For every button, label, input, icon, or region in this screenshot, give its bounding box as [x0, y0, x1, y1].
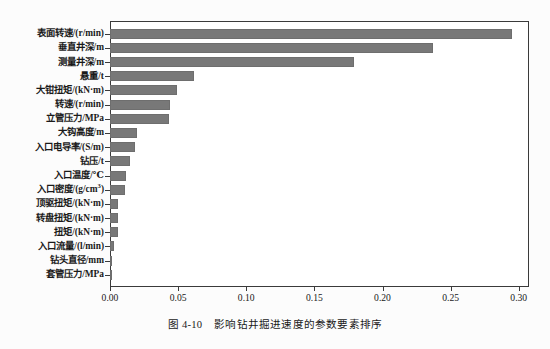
y-axis-label: 套管压力/MPa: [0, 269, 104, 280]
bars-layer: [110, 21, 529, 287]
bar-row: [110, 154, 529, 168]
x-axis-tick: [110, 287, 111, 291]
bar-row: [110, 112, 529, 126]
x-axis-tick-label: 0.00: [90, 292, 130, 303]
bar-row: [110, 268, 529, 282]
bar-row: [110, 239, 529, 253]
bar: [110, 71, 194, 81]
bar: [110, 213, 118, 223]
y-axis-label: 扭矩/(kN·m): [0, 227, 104, 238]
bar-row: [110, 169, 529, 183]
bar-row: [110, 69, 529, 83]
bar-row: [110, 27, 529, 41]
caption-number: 图 4-10: [168, 319, 202, 330]
bar-row: [110, 98, 529, 112]
y-axis-label: 入口温度/℃: [0, 170, 104, 181]
y-axis-label: 测量井深/m: [0, 57, 104, 68]
y-axis-label: 大钩高度/m: [0, 127, 104, 138]
y-axis-label: 入口电导率/(S/m): [0, 142, 104, 153]
y-axis-label: 入口密度/(g/cm3): [0, 184, 104, 195]
y-axis-label: 入口流量/(l/min): [0, 241, 104, 252]
x-axis-tick: [519, 287, 520, 291]
bar: [110, 185, 125, 195]
bar: [110, 241, 114, 251]
x-axis-tick-label: 0.30: [499, 292, 539, 303]
y-axis-label: 转盘扭矩/(kN·m): [0, 213, 104, 224]
y-axis-label: 悬重/t: [0, 71, 104, 82]
x-axis-tick: [178, 287, 179, 291]
x-axis-tick-label: 0.15: [294, 292, 334, 303]
bar: [110, 114, 169, 124]
y-axis-label: 立管压力/MPa: [0, 113, 104, 124]
bar-row: [110, 225, 529, 239]
bar: [110, 57, 354, 67]
bar: [110, 29, 512, 39]
bar: [110, 100, 170, 110]
bar-row: [110, 55, 529, 69]
y-axis-label: 大钳扭矩/(kN·m): [0, 85, 104, 96]
x-axis-tick-label: 0.10: [226, 292, 266, 303]
x-axis-tick: [314, 287, 315, 291]
x-axis-tick: [383, 287, 384, 291]
bar-row: [110, 126, 529, 140]
bar-row: [110, 197, 529, 211]
figure-container: 表面转速/(r/min)垂直井深/m测量井深/m悬重/t大钳扭矩/(kN·m)转…: [0, 0, 550, 349]
figure-caption: 图 4-10影响钻井掘进速度的参数要素排序: [0, 316, 550, 331]
bar: [110, 156, 130, 166]
bar: [110, 270, 112, 280]
bar: [110, 43, 433, 53]
y-axis-category-labels: 表面转速/(r/min)垂直井深/m测量井深/m悬重/t大钳扭矩/(kN·m)转…: [0, 21, 104, 287]
x-axis-tick-label: 0.20: [363, 292, 403, 303]
bar: [110, 171, 126, 181]
bar: [110, 85, 177, 95]
bar-row: [110, 183, 529, 197]
bar: [110, 227, 118, 237]
bar-row: [110, 41, 529, 55]
y-axis-label: 顶驱扭矩/(kN·m): [0, 198, 104, 209]
x-axis-tick-label: 0.25: [431, 292, 471, 303]
y-axis-label: 钻压/t: [0, 156, 104, 167]
y-axis-label: 钻头直径/mm: [0, 255, 104, 266]
y-axis-label: 表面转速/(r/min): [0, 28, 104, 39]
bar: [110, 199, 118, 209]
bar: [110, 256, 112, 266]
x-axis-tick: [246, 287, 247, 291]
y-axis-label: 垂直井深/m: [0, 42, 104, 53]
bar: [110, 142, 135, 152]
x-axis-tick-label: 0.05: [158, 292, 198, 303]
caption-text: 影响钻井掘进速度的参数要素排序: [214, 319, 382, 330]
bar-row: [110, 254, 529, 268]
y-axis-label: 转速/(r/min): [0, 99, 104, 110]
bar: [110, 128, 137, 138]
bar-row: [110, 140, 529, 154]
bar-row: [110, 211, 529, 225]
bar-row: [110, 83, 529, 97]
x-axis-tick: [451, 287, 452, 291]
